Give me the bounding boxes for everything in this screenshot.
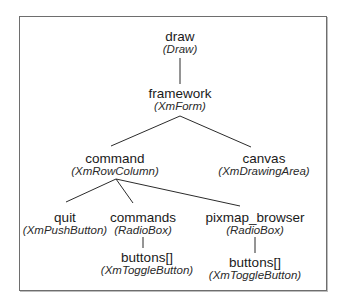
node-framework: framework (XmForm): [148, 87, 211, 113]
node-class: (XmRowColumn): [71, 165, 159, 178]
node-name: draw: [163, 30, 198, 43]
node-name: commands: [110, 211, 176, 224]
node-class: (Draw): [163, 43, 198, 56]
node-class: (XmToggleButton): [209, 269, 301, 282]
node-name: quit: [23, 211, 107, 224]
node-commands-buttons: buttons[] (XmToggleButton): [101, 251, 193, 277]
node-name: command: [71, 152, 159, 165]
node-name: buttons[]: [101, 251, 193, 264]
node-class: (RadioBox): [110, 224, 176, 237]
edge-command-quit: [66, 179, 116, 202]
edge-framework-command: [111, 116, 180, 146]
node-pixmap-browser: pixmap_browser (RadioBox): [205, 211, 304, 237]
node-class: (RadioBox): [205, 224, 304, 237]
node-pixmap-buttons: buttons[] (XmToggleButton): [209, 256, 301, 282]
node-name: framework: [148, 87, 211, 100]
node-command: command (XmRowColumn): [71, 152, 159, 178]
node-name: buttons[]: [209, 256, 301, 269]
node-commands: commands (RadioBox): [110, 211, 176, 237]
node-class: (XmPushButton): [23, 224, 107, 237]
edge-command-pixmap-browser: [116, 179, 240, 206]
node-draw: draw (Draw): [163, 30, 198, 56]
node-class: (XmDrawingArea): [218, 165, 309, 178]
node-quit: quit (XmPushButton): [23, 211, 107, 237]
node-class: (XmToggleButton): [101, 264, 193, 277]
node-class: (XmForm): [148, 100, 211, 113]
node-name: canvas: [218, 152, 309, 165]
node-canvas: canvas (XmDrawingArea): [218, 152, 309, 178]
edge-framework-canvas: [180, 116, 251, 147]
node-name: pixmap_browser: [205, 211, 304, 224]
